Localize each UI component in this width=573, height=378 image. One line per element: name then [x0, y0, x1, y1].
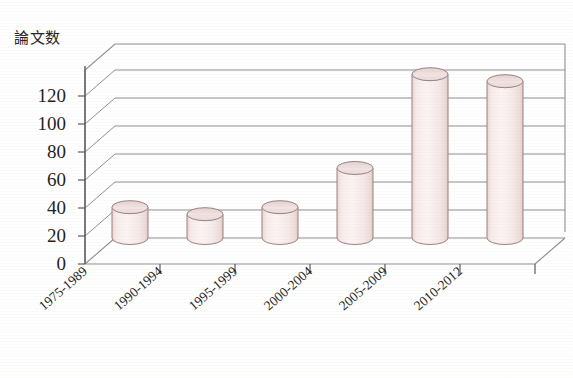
y-axis-ticks [78, 96, 85, 264]
y-tick-label-20: 20 [20, 226, 66, 245]
bar-cylinder-1975-1989[interactable] [112, 201, 148, 245]
y-tick-label-80: 80 [20, 142, 66, 161]
bar-cylinder-2000-2004[interactable] [337, 162, 373, 245]
y-tick-label-40: 40 [20, 198, 66, 217]
y-tick-label-0: 0 [20, 254, 66, 273]
y-tick-label-100: 100 [20, 114, 66, 133]
bar-cylinder-2005-2009[interactable] [412, 68, 448, 245]
bar-cylinder-2010-2012[interactable] [487, 75, 523, 245]
chart-container: 論文数 120 100 80 60 40 20 0 1975-1989 1990… [0, 0, 573, 378]
bar-cylinder-1990-1994[interactable] [187, 208, 223, 245]
chart-canvas [0, 0, 573, 378]
x-axis-ticks [160, 264, 535, 274]
y-tick-label-120: 120 [20, 86, 66, 105]
bar-cylinder-1995-1999[interactable] [262, 201, 298, 245]
y-tick-label-60: 60 [20, 170, 66, 189]
y-axis-title: 論文数 [14, 26, 61, 47]
